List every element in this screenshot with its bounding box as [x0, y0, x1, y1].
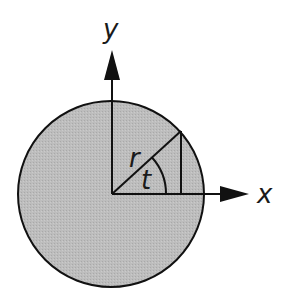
y-axis-label: y	[102, 14, 119, 44]
x-axis-arrow-icon	[220, 186, 249, 202]
y-axis-arrow-icon	[104, 50, 120, 80]
disk-diagram: y x r t	[0, 0, 292, 304]
x-axis-label: x	[256, 179, 273, 209]
diagram-canvas: y x r t	[0, 0, 292, 304]
angle-label: t	[141, 165, 152, 195]
